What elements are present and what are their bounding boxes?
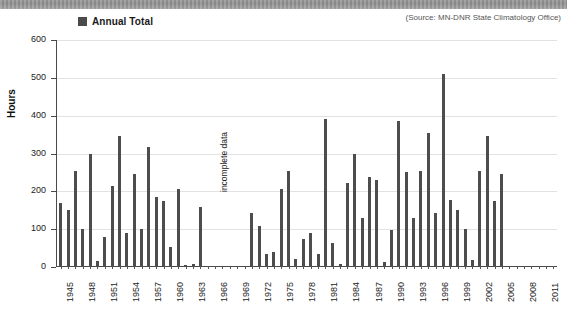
bar — [81, 229, 84, 267]
page-top-band — [0, 0, 567, 9]
chart-legend: Annual Total — [78, 16, 153, 27]
x-tick-label: 2011 — [550, 283, 560, 302]
source-note: (Source: MN-DNR State Climatology Office… — [406, 13, 561, 22]
x-tick-label: 1999 — [462, 282, 472, 302]
x-tick-label: 1978 — [307, 282, 317, 302]
bar — [162, 201, 165, 267]
x-tick-mark — [178, 266, 179, 269]
bar — [111, 186, 114, 267]
x-tick-label: 1948 — [87, 282, 97, 302]
y-tick-label: 200 — [0, 186, 46, 195]
x-tick-mark — [215, 266, 216, 269]
bar — [331, 243, 334, 267]
x-tick-label: 1990 — [396, 282, 406, 302]
x-tick-label: 1987 — [374, 282, 384, 302]
bar — [199, 207, 202, 267]
y-tick-mark — [51, 116, 56, 117]
x-tick-mark — [245, 266, 246, 269]
x-tick-mark — [450, 266, 451, 269]
bar — [456, 210, 459, 268]
x-tick-mark — [222, 266, 223, 269]
x-tick-mark — [495, 266, 496, 269]
y-tick-mark — [51, 78, 56, 79]
bar — [103, 237, 106, 267]
x-tick-mark — [83, 266, 84, 269]
bar — [258, 226, 261, 267]
x-tick-label: 1957 — [153, 282, 163, 302]
y-tick-label: 600 — [0, 35, 46, 44]
x-tick-mark — [149, 266, 150, 269]
x-tick-mark — [421, 266, 422, 269]
x-tick-mark — [465, 266, 466, 269]
bar — [309, 233, 312, 267]
x-tick-mark — [546, 266, 547, 269]
y-tick-label: 300 — [0, 149, 46, 158]
bar — [302, 239, 305, 267]
x-tick-mark — [134, 266, 135, 269]
x-tick-mark — [414, 266, 415, 269]
incomplete-data-annotation: incomplete data — [219, 132, 229, 192]
bar — [317, 254, 320, 267]
x-tick-label: 1981 — [329, 282, 339, 302]
x-tick-label: 1954 — [131, 282, 141, 302]
y-tick-label: 100 — [0, 224, 46, 233]
bar — [486, 136, 489, 267]
x-tick-label: 1966 — [219, 282, 229, 302]
x-tick-mark — [524, 266, 525, 269]
x-tick-mark — [281, 266, 282, 269]
bar — [265, 254, 268, 267]
x-tick-mark — [289, 266, 290, 269]
x-tick-mark — [61, 266, 62, 269]
bar — [118, 136, 121, 267]
y-axis-line — [56, 40, 57, 267]
bar — [375, 180, 378, 267]
x-tick-label-group: 1945194819511954195719601963196619691972… — [57, 270, 557, 309]
bar — [464, 229, 467, 267]
y-tick-label: 0 — [0, 262, 46, 271]
plot-area — [57, 40, 557, 267]
x-tick-mark — [458, 266, 459, 269]
bar — [280, 189, 283, 267]
x-tick-label: 1972 — [263, 282, 273, 302]
x-tick-mark — [472, 266, 473, 269]
x-tick-mark — [296, 266, 297, 269]
y-tick-mark — [51, 154, 56, 155]
x-tick-mark — [142, 266, 143, 269]
x-tick-mark — [252, 266, 253, 269]
x-tick-mark — [97, 266, 98, 269]
x-tick-mark — [90, 266, 91, 269]
bar — [250, 213, 253, 267]
x-tick-mark — [230, 266, 231, 269]
legend-label: Annual Total — [92, 16, 153, 27]
x-tick-mark — [267, 266, 268, 269]
x-tick-mark — [509, 266, 510, 269]
x-tick-label: 1951 — [109, 282, 119, 302]
x-tick-mark — [436, 266, 437, 269]
x-tick-mark — [112, 266, 113, 269]
y-tick-mark — [51, 40, 56, 41]
x-tick-mark — [340, 266, 341, 269]
x-tick-mark — [392, 266, 393, 269]
x-tick-mark — [186, 266, 187, 269]
bar — [140, 229, 143, 267]
bar — [478, 171, 481, 267]
x-tick-mark — [171, 266, 172, 269]
x-tick-mark — [355, 266, 356, 269]
bar — [405, 172, 408, 267]
bar — [419, 171, 422, 267]
bar — [442, 74, 445, 267]
x-tick-label: 1984 — [351, 282, 361, 302]
x-tick-mark — [428, 266, 429, 269]
x-tick-label: 1993 — [418, 282, 428, 302]
x-tick-mark — [325, 266, 326, 269]
y-tick-mark — [51, 267, 56, 268]
bar-series-annual-total — [57, 40, 557, 267]
bar — [361, 218, 364, 267]
bar — [272, 252, 275, 267]
x-tick-mark — [370, 266, 371, 269]
y-tick-label: 500 — [0, 73, 46, 82]
x-tick-mark — [68, 266, 69, 269]
x-tick-label: 2002 — [484, 282, 494, 302]
x-tick-mark — [539, 266, 540, 269]
bar — [493, 201, 496, 267]
